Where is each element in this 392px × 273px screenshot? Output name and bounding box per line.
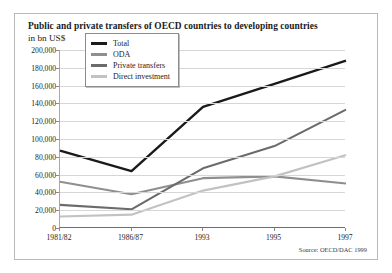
x-axis-tick-label: 1995 bbox=[266, 233, 281, 242]
chart-legend: TotalODAPrivate transfersDirect investme… bbox=[85, 33, 179, 87]
y-axis-tick-label: 0 bbox=[16, 224, 56, 233]
legend-item-label: Total bbox=[113, 39, 129, 48]
x-axis-tick-label: 1986/87 bbox=[118, 233, 143, 242]
title-block: Public and private transfers of OECD cou… bbox=[28, 21, 364, 44]
chart-subtitle: in bn US$ bbox=[28, 33, 364, 45]
legend-color-swatch bbox=[91, 75, 107, 78]
x-axis-tick-mark bbox=[131, 228, 132, 231]
y-axis-tick-label: 180,000 bbox=[16, 63, 56, 72]
x-axis-tick-mark bbox=[345, 228, 346, 231]
plot-wrapper: 020,00040,00060,00080,000100,000120,0001… bbox=[15, 45, 377, 259]
source-note: Source: OECD/DAC 1999 bbox=[299, 246, 367, 253]
y-axis-tick-label: 100,000 bbox=[16, 135, 56, 144]
y-axis-tick-label: 160,000 bbox=[16, 81, 56, 90]
gridline bbox=[60, 175, 345, 176]
y-axis-tick-label: 80,000 bbox=[16, 152, 56, 161]
x-axis-tick-label: 1993 bbox=[194, 233, 209, 242]
chart-figure: Public and private transfers of OECD cou… bbox=[14, 13, 378, 260]
y-axis-tick-label: 60,000 bbox=[16, 170, 56, 179]
legend-item-label: ODA bbox=[113, 50, 130, 59]
x-axis-tick-mark bbox=[274, 228, 275, 231]
legend-item-label: Private transfers bbox=[113, 61, 165, 70]
gridline bbox=[60, 103, 345, 104]
y-axis-labels: 020,00040,00060,00080,000100,000120,0001… bbox=[15, 50, 56, 228]
series-line bbox=[60, 110, 346, 210]
legend-color-swatch bbox=[91, 64, 107, 67]
gridline bbox=[60, 121, 345, 122]
x-axis-tick-label: 1997 bbox=[337, 233, 352, 242]
legend-color-swatch bbox=[91, 53, 107, 56]
x-axis-tick-label: 1981/82 bbox=[47, 233, 72, 242]
y-axis-tick-label: 40,000 bbox=[16, 188, 56, 197]
x-axis-tick-mark bbox=[59, 228, 60, 231]
legend-item[interactable]: ODA bbox=[91, 49, 170, 60]
gridline bbox=[60, 157, 345, 158]
x-axis-tick-mark bbox=[202, 228, 203, 231]
y-axis-tick-label: 120,000 bbox=[16, 117, 56, 126]
legend-color-swatch bbox=[91, 42, 107, 45]
legend-item[interactable]: Private transfers bbox=[91, 60, 170, 71]
y-axis-tick-label: 20,000 bbox=[16, 206, 56, 215]
legend-item-label: Direct investment bbox=[113, 72, 170, 81]
y-axis-tick-label: 200,000 bbox=[16, 46, 56, 55]
legend-item[interactable]: Direct investment bbox=[91, 71, 170, 82]
gridline bbox=[60, 192, 345, 193]
legend-item[interactable]: Total bbox=[91, 38, 170, 49]
gridline bbox=[60, 139, 345, 140]
gridline bbox=[60, 210, 345, 211]
chart-title: Public and private transfers of OECD cou… bbox=[28, 21, 364, 33]
y-axis-tick-label: 140,000 bbox=[16, 99, 56, 108]
